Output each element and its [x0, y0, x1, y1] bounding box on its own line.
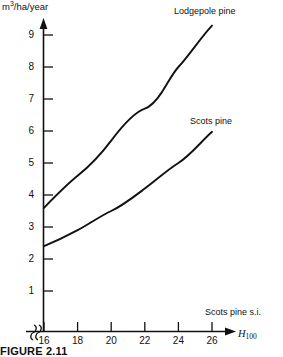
y-tick-label: 3: [18, 222, 34, 232]
x-tick-label: 20: [101, 336, 121, 346]
x-tick-label: 24: [168, 336, 188, 346]
y-axis-title: m3/ha/year: [2, 2, 48, 12]
series-label-lodgepole-pine: Lodgepole pine: [174, 7, 236, 16]
y-axis-ticks: [44, 35, 54, 291]
y-tick-label: 2: [18, 254, 34, 264]
figure-caption: FIGURE 2.11: [0, 345, 68, 357]
y-axis-title-exponent: 3: [10, 0, 14, 7]
y-axis: [40, 18, 48, 332]
x-tick-label: 22: [135, 336, 155, 346]
x-axis: [26, 328, 236, 336]
series-label-scots-pine: Scots pine: [190, 117, 232, 126]
y-axis-arrowhead: [40, 18, 48, 29]
x-tick-label: 26: [202, 336, 222, 346]
x-axis-symbol-subscript: 100: [246, 332, 257, 341]
y-tick-label: 9: [18, 30, 34, 40]
y-tick-label: 8: [18, 62, 34, 72]
y-tick-label: 5: [18, 158, 34, 168]
series-curve-lodgepole-pine: [44, 26, 212, 208]
y-tick-label: 7: [18, 94, 34, 104]
y-tick-label: 6: [18, 126, 34, 136]
y-tick-label: 1: [18, 286, 34, 296]
x-axis-title: Scots pine s.i.: [205, 308, 261, 317]
x-axis-symbol-letter: H: [238, 328, 246, 339]
series-curve-scots-pine: [44, 132, 212, 246]
x-axis-ticks: [44, 322, 212, 332]
y-tick-label: 4: [18, 190, 34, 200]
x-axis-arrowhead: [225, 328, 236, 336]
x-axis-symbol: H100: [238, 329, 257, 340]
x-tick-label: 18: [68, 336, 88, 346]
